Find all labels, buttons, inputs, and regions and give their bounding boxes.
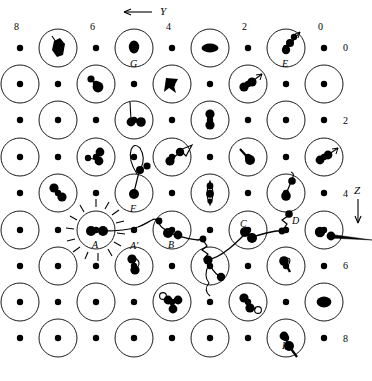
lattice-circle-center-dot — [17, 227, 23, 233]
lattice-dot — [17, 190, 23, 196]
defect-row1-c3 — [202, 44, 219, 53]
lattice-dot — [169, 117, 175, 123]
lattice-dot — [17, 263, 23, 269]
lattice-dot — [169, 45, 175, 51]
lattice-circle-center-dot — [55, 335, 61, 341]
lattice-circle-center-dot — [283, 117, 289, 123]
defect-row7-c3 — [203, 255, 225, 296]
lattice-dot — [207, 227, 213, 233]
z-axis-tick-2: 2 — [343, 116, 348, 126]
site-label-G: G — [130, 59, 137, 69]
lattice-dot — [55, 227, 61, 233]
defect-row1-c1 — [52, 36, 65, 57]
lattice-circle-center-dot — [131, 335, 137, 341]
lattice-dot — [321, 117, 327, 123]
y-axis-tick-0: 0 — [318, 22, 323, 32]
z-axis-arrow — [355, 199, 361, 223]
defect-row7-c2 — [127, 254, 139, 274]
z-axis-tick-6: 6 — [343, 261, 348, 271]
defect-row4-c5 — [316, 148, 338, 164]
defect-row5-c4 — [281, 172, 296, 201]
lattice-dot — [245, 190, 251, 196]
y-axis-arrow — [124, 9, 152, 15]
particle-track — [104, 210, 293, 259]
y-axis-label: Y — [160, 6, 166, 17]
lattice-circle-center-dot — [207, 335, 213, 341]
lattice-dot — [55, 154, 61, 160]
lattice-dot — [93, 190, 99, 196]
lattice-dot — [55, 299, 61, 305]
lattice-dot — [131, 81, 137, 87]
lattice-circle-center-dot — [17, 81, 23, 87]
lattice-defect-figure: 8642002468YZGEFAA'BCDH — [0, 0, 372, 381]
lattice-dot — [55, 81, 61, 87]
defect-row3-c2 — [127, 102, 146, 127]
lattice-dot — [245, 335, 251, 341]
defect-row2-c4 — [239, 74, 262, 92]
defect-row4-c4 — [240, 149, 255, 165]
z-axis-tick-0: 0 — [343, 43, 348, 53]
lattice-dot — [17, 45, 23, 51]
lattice-dot — [93, 263, 99, 269]
site-label-F: F — [130, 204, 136, 214]
defect-row5-c1 — [49, 183, 66, 201]
z-axis-label: Z — [354, 185, 360, 196]
lattice-dot — [245, 117, 251, 123]
z-axis-tick-4: 4 — [343, 189, 348, 199]
site-label-A-prime: A' — [130, 241, 138, 251]
site-label-A: A — [92, 240, 98, 250]
y-axis-tick-2: 2 — [242, 22, 247, 32]
defect-row2-c2 — [87, 75, 103, 92]
y-axis-tick-8: 8 — [14, 22, 19, 32]
lattice-dot — [321, 45, 327, 51]
lattice-dot — [169, 263, 175, 269]
lattice-dot — [245, 45, 251, 51]
y-axis-tick-6: 6 — [90, 22, 95, 32]
lattice-circle-center-dot — [93, 299, 99, 305]
lattice-dot — [131, 154, 137, 160]
lattice-circle-center-dot — [55, 117, 61, 123]
lattice-diagram-canvas — [0, 0, 372, 381]
lattice-dot — [169, 335, 175, 341]
lattice-dot — [283, 81, 289, 87]
lattice-dot — [321, 263, 327, 269]
z-axis-tick-8: 8 — [343, 334, 348, 344]
lattice-dot — [321, 335, 327, 341]
lattice-circle-center-dot — [17, 154, 23, 160]
lattice-dot — [283, 299, 289, 305]
defect-row6-C — [240, 227, 257, 243]
site-label-B: B — [168, 240, 174, 250]
defect-row2-c3 — [164, 78, 178, 93]
lattice-dot — [207, 81, 213, 87]
lattice-circle-center-dot — [17, 299, 23, 305]
lattice-dot — [321, 190, 327, 196]
defect-row1-G — [129, 41, 139, 54]
defect-row8-c5 — [317, 297, 332, 308]
lattice-dot — [207, 154, 213, 160]
defect-row8-c3 — [160, 293, 183, 314]
lattice-dot — [283, 154, 289, 160]
site-label-D: D — [292, 216, 299, 226]
lattice-dot — [17, 117, 23, 123]
lattice-circle-center-dot — [55, 263, 61, 269]
lattice-dot — [93, 117, 99, 123]
defect-row5-F — [129, 145, 151, 199]
lattice-dot — [17, 335, 23, 341]
lattice-dot — [207, 299, 213, 305]
lattice-dot — [131, 299, 137, 305]
lattice-dot — [93, 335, 99, 341]
lattice-dot — [169, 190, 175, 196]
defect-row5-c3 — [206, 181, 214, 205]
site-label-E: E — [282, 59, 288, 69]
site-label-H: H — [282, 341, 289, 351]
lattice-dot — [245, 263, 251, 269]
y-axis-tick-4: 4 — [166, 22, 171, 32]
lattice-circle-center-dot — [321, 81, 327, 87]
lattice-dot — [93, 45, 99, 51]
site-label-C: C — [240, 219, 247, 229]
defect-row1-E — [282, 32, 300, 54]
